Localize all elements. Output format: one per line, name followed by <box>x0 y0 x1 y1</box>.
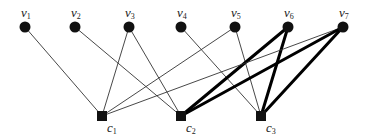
edge-v7-c1 <box>102 27 343 116</box>
bipartite-graph: v1v2v3v4v5v6v7c1c2c3 <box>0 0 365 140</box>
label-subscript: 3 <box>131 12 135 21</box>
edge-v3-c2 <box>129 27 181 116</box>
check-node-c2 <box>176 111 186 121</box>
variable-node-v4 <box>176 22 187 33</box>
variable-node-v7 <box>338 22 349 33</box>
variable-node-v2 <box>70 22 81 33</box>
variable-label-v3: v3 <box>125 5 135 21</box>
check-label-c2: c2 <box>186 120 196 136</box>
edge-layer <box>25 27 343 116</box>
label-subscript: 7 <box>345 12 349 21</box>
edge-v3-c1 <box>102 27 129 116</box>
label-subscript: 2 <box>77 12 81 21</box>
edge-v7-c2-bold <box>181 27 343 116</box>
label-subscript: 6 <box>290 12 294 21</box>
check-label-c1: c1 <box>107 120 117 136</box>
variable-label-v1: v1 <box>21 5 31 21</box>
variable-node-v3 <box>124 22 135 33</box>
variable-label-v5: v5 <box>231 5 241 21</box>
label-subscript: 3 <box>272 127 276 136</box>
check-node-c3 <box>256 111 266 121</box>
label-subscript: 5 <box>237 12 241 21</box>
variable-label-v7: v7 <box>339 5 349 21</box>
variable-label-v4: v4 <box>177 5 187 21</box>
variable-label-v6: v6 <box>284 5 294 21</box>
label-subscript: 1 <box>113 127 117 136</box>
variable-node-v1 <box>20 22 31 33</box>
node-layer <box>20 22 349 122</box>
variable-node-v5 <box>230 22 241 33</box>
variable-node-v6 <box>283 22 294 33</box>
label-subscript: 4 <box>183 12 187 21</box>
label-subscript: 1 <box>27 12 31 21</box>
label-subscript: 2 <box>192 127 196 136</box>
check-label-c3: c3 <box>266 120 276 136</box>
edge-v5-c3 <box>235 27 261 116</box>
check-node-c1 <box>97 111 107 121</box>
edge-v4-c3 <box>181 27 261 116</box>
variable-label-v2: v2 <box>71 5 81 21</box>
edge-v5-c1 <box>102 27 235 116</box>
